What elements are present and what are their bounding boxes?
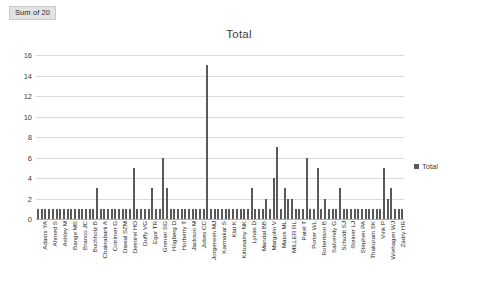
chart-legend[interactable]: Total [414,162,438,171]
bar[interactable] [401,209,403,219]
bar[interactable] [251,188,253,219]
bar[interactable] [125,209,127,219]
bar[interactable] [335,209,337,219]
bar[interactable] [291,199,293,220]
bar[interactable] [140,209,142,219]
bar[interactable] [148,209,150,219]
bar[interactable] [56,209,58,219]
bar[interactable] [70,209,72,219]
bar[interactable] [155,209,157,219]
bar[interactable] [203,209,205,219]
bar[interactable] [350,209,352,219]
bar[interactable] [324,199,326,220]
bar[interactable] [332,209,334,219]
bar[interactable] [394,209,396,219]
bar[interactable] [328,209,330,219]
bar[interactable] [78,209,80,219]
bar[interactable] [136,209,138,219]
bar[interactable] [173,209,175,219]
bar[interactable] [48,209,50,219]
bar[interactable] [85,209,87,219]
bar[interactable] [96,188,98,219]
bar[interactable] [129,209,131,219]
bar[interactable] [232,209,234,219]
bar[interactable] [81,209,83,219]
bar[interactable] [111,209,113,219]
bar[interactable] [63,209,65,219]
bar[interactable] [254,209,256,219]
bar[interactable] [67,209,69,219]
bar[interactable] [243,209,245,219]
bar[interactable] [199,209,201,219]
bar[interactable] [41,209,43,219]
bar[interactable] [170,209,172,219]
bar[interactable] [387,199,389,220]
bar[interactable] [225,209,227,219]
bar[interactable] [214,209,216,219]
bar[interactable] [379,209,381,219]
bar[interactable] [52,209,54,219]
bar[interactable] [298,209,300,219]
bar[interactable] [103,209,105,219]
bar[interactable] [320,209,322,219]
bar[interactable] [365,209,367,219]
bar[interactable] [357,209,359,219]
chart-area[interactable]: Total 0246810121416 Adams YAAhmed SAshle… [0,0,478,287]
bar[interactable] [343,209,345,219]
bar[interactable] [217,209,219,219]
bar[interactable] [210,209,212,219]
bar[interactable] [74,209,76,219]
bar[interactable] [398,209,400,219]
bar[interactable] [287,199,289,220]
bar[interactable] [269,209,271,219]
bar[interactable] [258,209,260,219]
bar[interactable] [107,209,109,219]
bar[interactable] [306,158,308,220]
bar[interactable] [236,209,238,219]
bar[interactable] [114,209,116,219]
bar[interactable] [192,209,194,219]
bar[interactable] [280,209,282,219]
bar[interactable] [302,209,304,219]
bar[interactable] [181,209,183,219]
bar[interactable] [273,178,275,219]
bar[interactable] [162,158,164,220]
bar[interactable] [188,209,190,219]
bar[interactable] [159,209,161,219]
bar[interactable] [195,209,197,219]
bar[interactable] [122,209,124,219]
bar[interactable] [240,209,242,219]
bar[interactable] [59,209,61,219]
bar[interactable] [284,188,286,219]
bar[interactable] [100,209,102,219]
bar[interactable] [265,199,267,220]
bar[interactable] [184,209,186,219]
bar[interactable] [372,209,374,219]
bar[interactable] [92,209,94,219]
bar[interactable] [221,209,223,219]
bar[interactable] [247,209,249,219]
bar[interactable] [118,209,120,219]
bar[interactable] [89,209,91,219]
bar[interactable] [368,209,370,219]
bar[interactable] [262,209,264,219]
bar[interactable] [309,209,311,219]
bar[interactable] [177,209,179,219]
bar[interactable] [37,209,39,219]
bar[interactable] [339,188,341,219]
bar[interactable] [133,168,135,219]
bar[interactable] [228,209,230,219]
bar[interactable] [346,209,348,219]
bar[interactable] [144,209,146,219]
bar[interactable] [317,168,319,219]
bar[interactable] [295,209,297,219]
bar[interactable] [376,209,378,219]
bar[interactable] [44,209,46,219]
bar[interactable] [390,188,392,219]
bar[interactable] [206,65,208,219]
bar[interactable] [313,209,315,219]
bar[interactable] [361,209,363,219]
bar[interactable] [151,188,153,219]
bar[interactable] [354,209,356,219]
bar[interactable] [383,168,385,219]
